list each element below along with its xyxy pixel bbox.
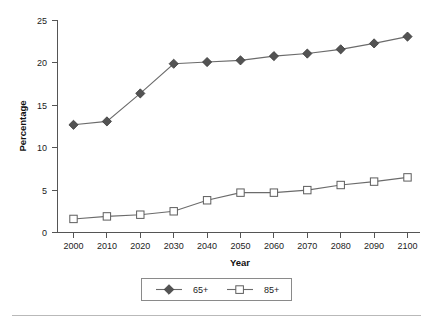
x-tick-label: 2070 xyxy=(297,241,317,251)
x-tick-label: 2010 xyxy=(97,241,117,251)
x-tick-label: 2080 xyxy=(331,241,351,251)
data-point-marker-square xyxy=(103,213,110,220)
x-tick-label: 2030 xyxy=(164,241,184,251)
x-axis-title: Year xyxy=(230,257,250,268)
chart-figure: 25 20 15 10 5 0 Percentage 2000 2010 xyxy=(0,0,433,324)
x-tick-label: 2060 xyxy=(264,241,284,251)
y-tick-label: 5 xyxy=(42,186,47,196)
y-axis-title: Percentage xyxy=(17,100,28,151)
y-tick-label: 20 xyxy=(37,58,47,68)
legend-marker-open-square xyxy=(236,286,244,294)
x-tick-label: 2050 xyxy=(230,241,250,251)
data-point-marker-square xyxy=(370,178,377,185)
x-tick-label: 2020 xyxy=(130,241,150,251)
legend-label-85plus: 85+ xyxy=(264,285,279,295)
data-point-marker-square xyxy=(70,215,77,222)
chart-background xyxy=(0,0,433,324)
x-tick-label: 2090 xyxy=(364,241,384,251)
line-chart: 25 20 15 10 5 0 Percentage 2000 2010 xyxy=(0,0,433,324)
y-tick-label: 15 xyxy=(37,101,47,111)
legend-label-65plus: 65+ xyxy=(193,285,208,295)
data-point-marker-square xyxy=(304,186,311,193)
data-point-marker-square xyxy=(270,189,277,196)
x-axis-tick-labels: 2000 2010 2020 2030 2040 2050 2060 2070 … xyxy=(63,241,417,251)
data-point-marker-square xyxy=(137,211,144,218)
x-tick-label: 2100 xyxy=(397,241,417,251)
data-point-marker-square xyxy=(404,174,411,181)
data-point-marker-square xyxy=(203,197,210,204)
chart-legend: 65+ 85+ xyxy=(142,279,292,301)
y-tick-label: 10 xyxy=(37,143,47,153)
data-point-marker-square xyxy=(337,181,344,188)
y-tick-label: 0 xyxy=(42,228,47,238)
x-tick-label: 2040 xyxy=(197,241,217,251)
data-point-marker-square xyxy=(237,189,244,196)
x-tick-label: 2000 xyxy=(63,241,83,251)
data-point-marker-square xyxy=(170,208,177,215)
y-tick-label: 25 xyxy=(37,16,47,26)
